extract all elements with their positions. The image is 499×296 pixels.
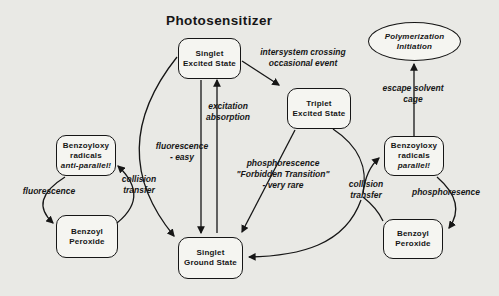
arrow-sweep-to-ground-state xyxy=(249,200,361,257)
label-line: "Forbidden Transition" xyxy=(237,169,330,180)
label-line: transfer xyxy=(349,190,383,201)
node-label-line: Benzoyloxy xyxy=(391,141,437,151)
page-title: Photosensitizer xyxy=(166,13,273,28)
node-label-line: Ground State xyxy=(184,258,237,268)
node-label-line: Peroxide xyxy=(395,239,430,249)
node-label-line: Benzoyl xyxy=(397,229,429,239)
node-label-line: Peroxide xyxy=(69,237,104,247)
node-label-line: Excited State xyxy=(293,109,346,119)
label-phosphorescence-forbidden: phosphorescence "Forbidden Transition" -… xyxy=(237,158,330,191)
label-line: phosphorescence xyxy=(237,158,330,169)
label-line: escape solvent xyxy=(383,83,444,94)
label-line: absorption xyxy=(206,112,250,123)
node-label-line: Triplet xyxy=(306,99,331,109)
label-intersystem-crossing: intersystem crossing occasional event xyxy=(260,47,346,69)
label-line: transfer xyxy=(122,185,156,196)
node-benzoyloxy-radicals-antiparallel: Benzoyloxy radicals anti-parallel! xyxy=(56,135,116,176)
label-fluorescence-left: fluorescence xyxy=(23,186,75,197)
label-line: cage xyxy=(383,94,444,105)
node-singlet-excited-state: Singlet Excited State xyxy=(178,38,241,79)
node-triplet-excited-state: Triplet Excited State xyxy=(287,88,351,129)
node-label-line: Benzoyl xyxy=(71,227,103,237)
label-phosphoresence-right: phosphoresence xyxy=(412,187,480,198)
label-line: collision xyxy=(122,174,156,185)
node-benzoyl-peroxide-right: Benzoyl Peroxide xyxy=(383,219,443,259)
node-label-line: Excited State xyxy=(183,59,236,69)
node-label-line: parallel! xyxy=(398,161,430,171)
label-line: excitation xyxy=(206,101,250,112)
label-fluorescence-easy: fluorescence - easy xyxy=(156,141,208,163)
label-line: intersystem crossing xyxy=(260,47,346,58)
label-line: - very rare xyxy=(237,180,330,191)
node-label-line: Polymerization xyxy=(385,32,445,42)
node-label-line: Benzoyloxy xyxy=(63,141,109,151)
node-polymerization-initiation: Polymerization Initiation xyxy=(368,22,461,61)
arrow-right-phosphoresence-cycle xyxy=(437,177,456,228)
label-line: collision xyxy=(349,179,383,190)
label-line: fluorescence xyxy=(156,141,208,152)
node-label-line: Singlet xyxy=(195,49,223,59)
label-collision-transfer-right: collision transfer xyxy=(349,179,383,201)
node-label-line: Singlet xyxy=(196,248,224,258)
node-benzoyloxy-radicals-parallel: Benzoyloxy radicals parallel! xyxy=(384,136,444,176)
label-excitation-absorption: excitation absorption xyxy=(206,101,250,123)
label-collision-transfer-left: collision transfer xyxy=(122,174,156,196)
label-escape-solvent-cage: escape solvent cage xyxy=(383,83,444,105)
label-line: occasional event xyxy=(260,58,346,69)
node-label-line: anti-parallel! xyxy=(61,161,111,171)
label-line: - easy xyxy=(156,152,208,163)
node-benzoyl-peroxide-left: Benzoyl Peroxide xyxy=(56,215,118,258)
node-label-line: radicals xyxy=(398,151,430,161)
node-label-line: radicals xyxy=(70,151,102,161)
node-singlet-ground-state: Singlet Ground State xyxy=(178,237,243,279)
node-label-line: Initiation xyxy=(397,42,432,52)
photosensitizer-diagram: Photosensitizer Singlet Excited State Tr… xyxy=(0,0,499,296)
